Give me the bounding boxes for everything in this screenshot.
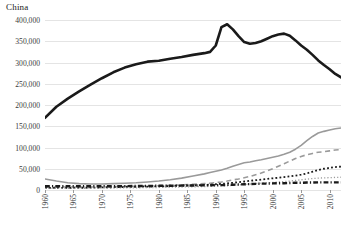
x-axis-tick-label: 2010 xyxy=(325,194,334,209)
y-axis-tick-label: 250,000 xyxy=(15,79,40,88)
plot-area xyxy=(45,20,341,190)
page-title: China xyxy=(6,2,29,12)
y-axis-tick-label: 150,000 xyxy=(15,122,40,131)
y-axis-tick-label: 50,000 xyxy=(19,164,40,173)
x-axis-tick-label: 1985 xyxy=(183,194,192,209)
x-axis-tick-label: 1990 xyxy=(211,194,220,209)
x-axis-tick-label: 1965 xyxy=(69,194,78,209)
x-axis-tick-label: 1970 xyxy=(97,194,106,209)
x-axis-tick-label: 1975 xyxy=(126,194,135,209)
y-axis-tick-label: 350,000 xyxy=(15,37,40,46)
y-axis: 400,000350,000300,000250,000200,000150,0… xyxy=(0,20,43,190)
y-axis-tick-label: 100,000 xyxy=(15,143,40,152)
data-series-layer xyxy=(45,20,341,190)
y-axis-tick-label: 200,000 xyxy=(15,101,40,110)
y-axis-tick-label: 0 xyxy=(36,186,40,195)
x-axis-tick-label: 1995 xyxy=(240,194,249,209)
x-axis-tick-label: 1960 xyxy=(41,194,50,209)
x-axis-tick-label: 2005 xyxy=(297,194,306,209)
series-line-series-1-thick-black xyxy=(45,24,341,118)
x-axis: 1960196519701975198019851990199520002005… xyxy=(45,192,341,233)
x-axis-tick-label: 2000 xyxy=(268,194,277,209)
series-line-series-3-dashed-gray xyxy=(45,150,341,187)
x-axis-tick-label: 1980 xyxy=(154,194,163,209)
y-axis-tick-label: 300,000 xyxy=(15,58,40,67)
y-axis-tick-label: 400,000 xyxy=(15,16,40,25)
chart-container: China 400,000350,000300,000250,000200,00… xyxy=(0,0,344,233)
